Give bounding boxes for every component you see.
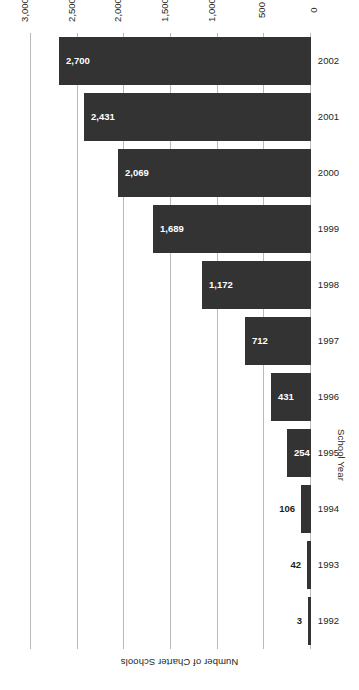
bar-value-label: 3	[297, 616, 302, 626]
bar-value-label: 42	[291, 560, 302, 570]
category-label-2001: 2001	[318, 112, 339, 122]
bar[interactable]	[308, 597, 311, 645]
bar-value-label: 2,069	[125, 168, 149, 178]
value-tick-label: 1,500	[159, 0, 170, 22]
bar-value-label: 2,431	[91, 112, 115, 122]
value-tick-label: 0	[308, 7, 319, 12]
bar-value-label: 1,689	[160, 224, 184, 234]
bar-row[interactable]: 4311996	[31, 373, 311, 421]
bar-value-label: 254	[294, 448, 310, 458]
category-label-1999: 1999	[318, 224, 339, 234]
category-label-1996: 1996	[318, 392, 339, 402]
bar-row[interactable]: 7121997	[31, 317, 311, 365]
bar-row[interactable]: 2541995	[31, 429, 311, 477]
category-label-2000: 2000	[318, 168, 339, 178]
category-label-1997: 1997	[318, 336, 339, 346]
bar[interactable]	[59, 37, 311, 85]
bar-row[interactable]: 1061994	[31, 485, 311, 533]
value-axis-title: Number of Charter Schools	[0, 657, 359, 668]
bar[interactable]	[307, 541, 311, 589]
bar-row[interactable]: 421993	[31, 541, 311, 589]
bar-value-label: 2,700	[66, 56, 90, 66]
bar[interactable]	[301, 485, 311, 533]
bar-chart: Number of Charter Schools School Year 05…	[0, 0, 359, 690]
category-label-1994: 1994	[318, 504, 339, 514]
bar-row[interactable]: 1,6891999	[31, 205, 311, 253]
value-tick-label: 3,000	[19, 0, 30, 22]
bar-row[interactable]: 31992	[31, 597, 311, 645]
bar-row[interactable]: 2,7002002	[31, 37, 311, 85]
plot-area: 05001,0001,5002,0002,5003,000 3199242199…	[31, 33, 311, 649]
category-label-1995: 1995	[318, 448, 339, 458]
bar-row[interactable]: 2,4312001	[31, 93, 311, 141]
value-tick-label: 2,500	[66, 0, 77, 22]
value-tick-label: 500	[256, 2, 267, 18]
value-tick-label: 2,000	[112, 0, 123, 22]
bar-value-label: 106	[279, 504, 295, 514]
bar-value-label: 1,172	[209, 280, 233, 290]
bar-row[interactable]: 1,1721998	[31, 261, 311, 309]
category-label-1993: 1993	[318, 560, 339, 570]
category-label-1998: 1998	[318, 280, 339, 290]
bar-row[interactable]: 2,0692000	[31, 149, 311, 197]
bar[interactable]	[84, 93, 311, 141]
bar-value-label: 431	[278, 392, 294, 402]
category-label-1992: 1992	[318, 616, 339, 626]
chart-rotation-wrapper: Number of Charter Schools School Year 05…	[0, 0, 359, 690]
bar-value-label: 712	[252, 336, 268, 346]
category-label-2002: 2002	[318, 56, 339, 66]
value-tick-label: 1,000	[206, 0, 217, 22]
